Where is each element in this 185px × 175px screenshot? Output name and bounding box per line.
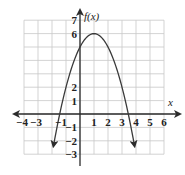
- x-tick-label: −3: [30, 116, 42, 128]
- y-tick-label: 1: [72, 95, 78, 107]
- x-tick-label: 2: [105, 116, 111, 128]
- x-tick-labels: −4−3−1123456: [16, 116, 167, 128]
- y-tick-label: −2: [65, 135, 77, 147]
- x-tick-label: 4: [133, 116, 139, 128]
- x-tick-label: 1: [91, 116, 97, 128]
- x-axis-label: x: [167, 96, 173, 108]
- x-tick-label: −4: [16, 116, 28, 128]
- x-tick-label: 6: [161, 116, 167, 128]
- y-tick-label: −3: [65, 148, 77, 160]
- y-tick-label: 6: [72, 28, 78, 40]
- y-tick-label: 2: [72, 81, 78, 93]
- x-tick-label: 3: [119, 116, 125, 128]
- function-graph: −4−3−1123456 7621−1−2−3 x f(x): [0, 0, 185, 175]
- x-tick-label: 5: [147, 116, 153, 128]
- y-tick-label: −1: [65, 121, 77, 133]
- y-tick-label: 7: [72, 14, 78, 26]
- grid: [24, 20, 164, 154]
- y-axis-label: f(x): [84, 10, 100, 23]
